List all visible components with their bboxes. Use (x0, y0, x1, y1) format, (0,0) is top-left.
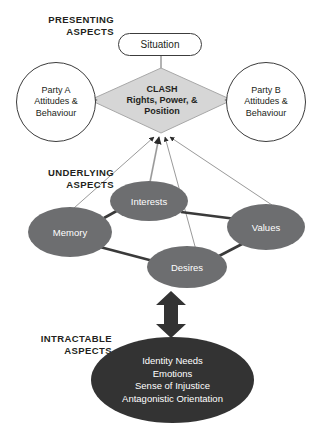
link-desires-values (219, 243, 244, 256)
node-intractable[interactable]: Identity Needs Emotions Sense of Injusti… (91, 337, 254, 423)
node-values[interactable]: Values (227, 204, 305, 250)
node-party-a[interactable]: Party A Attitudes & Behaviour (16, 62, 96, 142)
node-desires[interactable]: Desires (147, 246, 227, 288)
node-party-b[interactable]: Party B Attitudes & Behaviour (226, 62, 306, 142)
link-interests-values (181, 212, 236, 219)
node-clash[interactable]: CLASH Rights, Power, & Position (112, 68, 212, 132)
node-memory[interactable]: Memory (28, 207, 112, 257)
node-interests[interactable]: Interests (110, 181, 188, 221)
double-arrow-icon (156, 291, 186, 338)
connector-interests-to-clash (150, 137, 159, 182)
node-situation[interactable]: Situation (118, 33, 202, 56)
section-label-presenting: PRESENTING ASPECTS (6, 14, 114, 38)
diagram-canvas: PRESENTING ASPECTS UNDERLYING ASPECTS IN… (0, 0, 320, 437)
section-label-intractable: INTRACTABLE ASPECTS (2, 333, 112, 357)
section-label-underlying: UNDERLYING ASPECTS (6, 167, 114, 191)
